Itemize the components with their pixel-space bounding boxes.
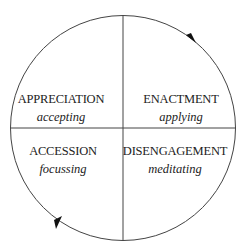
quadrant-subtitle: accepting xyxy=(11,108,111,126)
arrowhead-icon xyxy=(186,33,196,43)
quadrant-top-right: ENACTMENT applying xyxy=(131,90,231,126)
quadrant-title: ENACTMENT xyxy=(131,90,231,108)
quadrant-subtitle: meditating xyxy=(122,160,228,178)
quadrant-top-left: APPRECIATION accepting xyxy=(11,90,111,126)
quadrant-subtitle: focussing xyxy=(23,160,103,178)
cycle-diagram xyxy=(0,0,241,252)
quadrant-title: ACCESSION xyxy=(23,142,103,160)
quadrant-bottom-right: DISENGAGEMENT meditating xyxy=(122,142,228,178)
quadrant-subtitle: applying xyxy=(131,108,231,126)
quadrant-title: APPRECIATION xyxy=(11,90,111,108)
quadrant-title: DISENGAGEMENT xyxy=(122,142,228,160)
quadrant-bottom-left: ACCESSION focussing xyxy=(23,142,103,178)
